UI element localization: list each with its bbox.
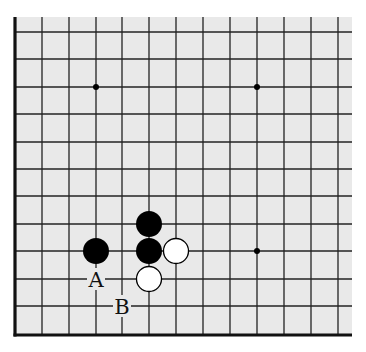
black-stone [136, 238, 162, 264]
white-stone [164, 239, 189, 264]
go-board-diagram: AB [0, 0, 366, 352]
move-label-a: A [87, 268, 104, 292]
move-label-b: B [114, 295, 129, 319]
star-point-icon [254, 248, 260, 254]
black-stone [136, 211, 162, 237]
white-stone [137, 267, 162, 292]
board-surface [15, 17, 352, 335]
black-stone [83, 238, 109, 264]
star-point-icon [254, 84, 260, 90]
star-point-icon [93, 84, 99, 90]
